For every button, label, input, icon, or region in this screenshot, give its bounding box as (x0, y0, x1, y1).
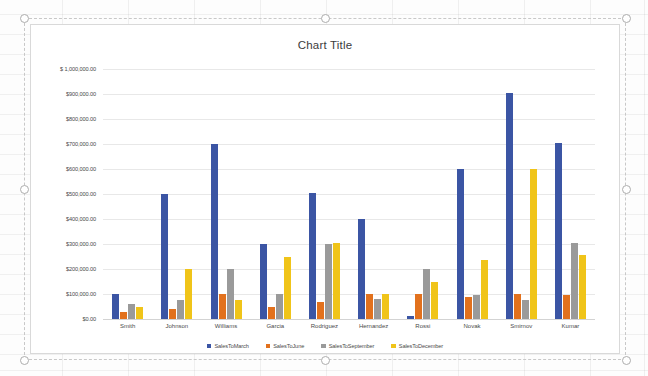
chart-legend[interactable]: SalesToMarchSalesToJuneSalesToSeptemberS… (31, 343, 619, 349)
legend-item[interactable]: SalesToSeptember (321, 343, 374, 349)
bar[interactable] (169, 309, 176, 319)
bar[interactable] (431, 282, 438, 320)
bar-group (447, 69, 496, 319)
y-axis-labels: $ 1,000,000.00$900,000.00$800,000.00$700… (31, 69, 99, 319)
bar[interactable] (219, 294, 226, 319)
bar[interactable] (284, 257, 291, 320)
bar[interactable] (579, 255, 586, 319)
x-axis-tick-label: Rossi (398, 323, 447, 329)
bar-group (201, 69, 250, 319)
chart-title[interactable]: Chart Title (31, 39, 619, 51)
y-axis-tick-label: $100,000.00 (66, 291, 96, 297)
bar[interactable] (358, 219, 365, 319)
legend-item[interactable]: SalesToDecember (391, 343, 443, 349)
bar-group (103, 69, 152, 319)
legend-swatch-icon (321, 344, 326, 349)
legend-swatch-icon (391, 344, 396, 349)
bar[interactable] (473, 295, 480, 319)
bar-group (546, 69, 595, 319)
resize-handle-middle-right[interactable] (622, 185, 631, 194)
bar[interactable] (366, 294, 373, 319)
x-axis-tick-label: Smirnov (497, 323, 546, 329)
bar[interactable] (457, 169, 464, 319)
bar[interactable] (555, 143, 562, 319)
bar[interactable] (227, 269, 234, 319)
y-axis-tick-label: $200,000.00 (66, 266, 96, 272)
bar[interactable] (465, 297, 472, 320)
bar-group (152, 69, 201, 319)
chart-object[interactable]: Chart Title $ 1,000,000.00$900,000.00$80… (30, 24, 620, 354)
bar-group (251, 69, 300, 319)
bar-groups (103, 69, 595, 319)
bar[interactable] (177, 300, 184, 319)
bar-group (398, 69, 447, 319)
legend-label: SalesToSeptember (329, 343, 375, 349)
y-axis-tick-label: $0.00 (83, 316, 97, 322)
resize-handle-top-center[interactable] (321, 14, 330, 23)
bar[interactable] (506, 93, 513, 319)
bar[interactable] (185, 269, 192, 319)
bar[interactable] (260, 244, 267, 319)
resize-handle-bottom-left[interactable] (20, 356, 29, 365)
bar[interactable] (211, 144, 218, 319)
y-axis-tick-label: $600,000.00 (66, 166, 96, 172)
x-axis-tick-label: Johnson (152, 323, 201, 329)
y-axis-tick-label: $400,000.00 (66, 216, 96, 222)
y-axis-tick-label: $300,000.00 (66, 241, 96, 247)
bar[interactable] (309, 193, 316, 319)
resize-handle-top-right[interactable] (622, 14, 631, 23)
y-axis-tick-label: $800,000.00 (66, 116, 96, 122)
legend-swatch-icon (207, 344, 212, 349)
legend-label: SalesToMarch (214, 343, 248, 349)
bar[interactable] (415, 294, 422, 319)
x-axis-tick-label: Smith (103, 323, 152, 329)
legend-swatch-icon (266, 344, 271, 349)
bar[interactable] (235, 300, 242, 319)
spreadsheet-canvas: Chart Title $ 1,000,000.00$900,000.00$80… (0, 0, 648, 376)
y-axis-tick-label: $700,000.00 (66, 141, 96, 147)
x-axis-labels: SmithJohnsonWilliamsGarciaRodriguezHerna… (103, 323, 595, 329)
bar[interactable] (530, 169, 537, 319)
bar[interactable] (136, 307, 143, 320)
bar[interactable] (161, 194, 168, 319)
bar[interactable] (268, 307, 275, 320)
bar[interactable] (333, 243, 340, 319)
x-axis-tick-label: Garcia (251, 323, 300, 329)
x-axis-tick-label: Novak (447, 323, 496, 329)
bar[interactable] (423, 269, 430, 319)
bar[interactable] (325, 244, 332, 319)
legend-label: SalesToDecember (399, 343, 443, 349)
bar[interactable] (522, 300, 529, 319)
bar[interactable] (317, 302, 324, 320)
legend-label: SalesToJune (273, 343, 304, 349)
bar[interactable] (112, 294, 119, 319)
resize-handle-bottom-center[interactable] (321, 356, 330, 365)
bar[interactable] (514, 294, 521, 319)
legend-item[interactable]: SalesToJune (266, 343, 304, 349)
y-axis-tick-label: $ 1,000,000.00 (60, 66, 96, 72)
resize-handle-bottom-right[interactable] (622, 356, 631, 365)
bar-group (497, 69, 546, 319)
x-axis-tick-label: Rodriguez (300, 323, 349, 329)
resize-handle-middle-left[interactable] (20, 185, 29, 194)
bar[interactable] (120, 312, 127, 320)
bar[interactable] (481, 260, 488, 319)
axis-baseline (103, 319, 595, 320)
x-axis-tick-label: Williams (201, 323, 250, 329)
bar[interactable] (128, 304, 135, 319)
bar[interactable] (374, 299, 381, 319)
legend-item[interactable]: SalesToMarch (207, 343, 249, 349)
bar[interactable] (382, 294, 389, 319)
bar[interactable] (276, 294, 283, 319)
x-axis-tick-label: Hernandez (349, 323, 398, 329)
bar[interactable] (571, 243, 578, 319)
bar[interactable] (407, 316, 414, 319)
bar[interactable] (563, 295, 570, 319)
bar-group (300, 69, 349, 319)
resize-handle-top-left[interactable] (20, 14, 29, 23)
y-axis-tick-label: $900,000.00 (66, 91, 96, 97)
bar-group (349, 69, 398, 319)
y-axis-tick-label: $500,000.00 (66, 191, 96, 197)
x-axis-tick-label: Kumar (546, 323, 595, 329)
